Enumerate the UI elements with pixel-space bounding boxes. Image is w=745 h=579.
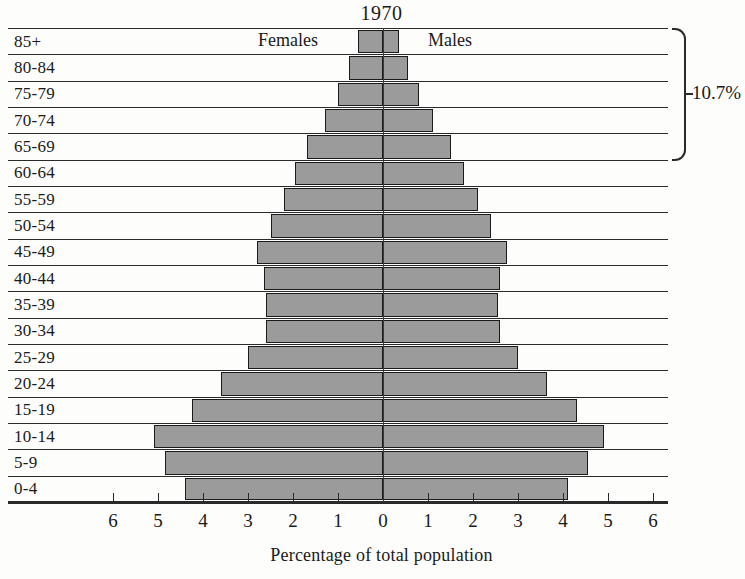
age-band-label: 5-9 <box>14 453 38 473</box>
center-axis-line <box>383 28 384 502</box>
bar-female <box>264 267 383 290</box>
age-band-label: 65-69 <box>14 137 55 157</box>
age-band-row: 80-84 <box>8 54 668 80</box>
x-axis-tick-label: 5 <box>593 510 623 532</box>
x-axis: 6543210123456 <box>8 502 668 504</box>
age-band-label: 30-34 <box>14 321 55 341</box>
x-axis-tick-label: 1 <box>323 510 353 532</box>
bar-female <box>221 372 383 395</box>
bar-female <box>154 425 384 448</box>
age-band-row: 25-29 <box>8 344 668 370</box>
bar-male <box>383 451 588 474</box>
bar-female <box>325 109 384 132</box>
bar-female <box>248 346 383 369</box>
age-band-row: 45-49 <box>8 239 668 265</box>
x-axis-tick <box>518 493 519 502</box>
x-axis-tick-label: 2 <box>278 510 308 532</box>
age-band-label: 60-64 <box>14 163 55 183</box>
x-axis-tick <box>338 493 339 502</box>
age-band-row: 50-54 <box>8 212 668 238</box>
bar-female <box>185 478 383 500</box>
bar-male <box>383 372 547 395</box>
annotation-bracket <box>672 28 686 161</box>
age-band-label: 35-39 <box>14 295 55 315</box>
bar-male <box>383 241 507 264</box>
bar-male <box>383 267 500 290</box>
age-band-row: 5-9 <box>8 449 668 475</box>
age-band-label: 85+ <box>14 32 42 52</box>
bar-male <box>383 83 419 106</box>
bar-male <box>383 188 478 211</box>
age-band-row: 10-14 <box>8 423 668 449</box>
bar-female <box>338 83 383 106</box>
x-axis-tick <box>158 493 159 502</box>
x-axis-title: Percentage of total population <box>0 545 745 566</box>
x-axis-tick-label: 3 <box>233 510 263 532</box>
x-axis-title-text: Percentage of total population <box>270 545 492 565</box>
age-band-row: 40-44 <box>8 265 668 291</box>
age-band-label: 25-29 <box>14 348 55 368</box>
bar-male <box>383 425 604 448</box>
age-band-label: 50-54 <box>14 216 55 236</box>
age-band-row: 65-69 <box>8 133 668 159</box>
age-band-row: 15-19 <box>8 397 668 423</box>
x-axis-tick-label: 2 <box>458 510 488 532</box>
bar-female <box>266 293 383 316</box>
x-axis-tick <box>653 493 654 502</box>
age-band-row: 60-64 <box>8 160 668 186</box>
x-axis-tick-label: 6 <box>98 510 128 532</box>
x-axis-tick-label: 6 <box>638 510 668 532</box>
bar-male <box>383 399 577 422</box>
age-band-row: 85+ <box>8 28 668 54</box>
age-band-rows: 85+80-8475-7970-7465-6960-6455-5950-5445… <box>8 28 668 502</box>
age-band-label: 15-19 <box>14 400 55 420</box>
age-band-label: 75-79 <box>14 84 55 104</box>
annotation-percentage-label: 10.7% <box>692 82 741 104</box>
bar-male <box>383 320 500 343</box>
chart-title: 1970 <box>0 2 745 25</box>
bar-female <box>358 30 383 53</box>
x-axis-tick-label: 1 <box>413 510 443 532</box>
population-pyramid-chart: 1970 85+80-8475-7970-7465-6960-6455-5950… <box>0 0 745 579</box>
x-axis-tick-label: 5 <box>143 510 173 532</box>
x-axis-tick <box>473 493 474 502</box>
bar-female <box>295 162 383 185</box>
x-axis-tick <box>113 493 114 502</box>
bar-male <box>383 346 518 369</box>
age-band-row: 20-24 <box>8 370 668 396</box>
x-axis-tick <box>248 493 249 502</box>
bar-male <box>383 56 408 79</box>
bar-male <box>383 478 568 500</box>
bar-female <box>271 214 384 237</box>
x-axis-tick <box>293 493 294 502</box>
age-band-label: 10-14 <box>14 427 55 447</box>
bar-female <box>349 56 383 79</box>
age-band-row: 55-59 <box>8 186 668 212</box>
x-axis-tick <box>608 493 609 502</box>
bar-female <box>257 241 383 264</box>
bar-male <box>383 214 491 237</box>
age-band-row: 30-34 <box>8 318 668 344</box>
age-band-label: 0-4 <box>14 479 38 499</box>
x-axis-tick <box>428 493 429 502</box>
bar-male <box>383 162 464 185</box>
x-axis-tick <box>203 493 204 502</box>
males-label: Males <box>428 30 472 51</box>
age-band-label: 55-59 <box>14 190 55 210</box>
bar-female <box>192 399 383 422</box>
bar-male <box>383 109 433 132</box>
age-band-row: 70-74 <box>8 107 668 133</box>
bar-female <box>307 135 384 158</box>
x-axis-tick-label: 0 <box>368 510 398 532</box>
bar-male <box>383 293 498 316</box>
age-band-label: 40-44 <box>14 269 55 289</box>
x-axis-tick <box>563 493 564 502</box>
bar-female <box>266 320 383 343</box>
age-band-row: 35-39 <box>8 291 668 317</box>
age-band-label: 45-49 <box>14 242 55 262</box>
age-band-row: 75-79 <box>8 81 668 107</box>
x-axis-tick-label: 3 <box>503 510 533 532</box>
females-label: Females <box>258 30 318 51</box>
bar-female <box>165 451 383 474</box>
x-axis-tick-label: 4 <box>188 510 218 532</box>
